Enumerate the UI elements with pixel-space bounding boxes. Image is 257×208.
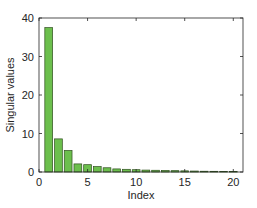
- x-tick-label: 15: [179, 176, 191, 188]
- y-tick-label: 30: [22, 51, 34, 63]
- bar: [55, 139, 63, 172]
- x-tick-label: 10: [130, 176, 142, 188]
- y-tick-label: 0: [28, 166, 34, 178]
- x-tick-label: 0: [36, 176, 42, 188]
- y-tick-label: 40: [22, 12, 34, 24]
- bar-chart: 010203040 05101520 Index Singular values: [0, 0, 257, 208]
- y-tick-label: 10: [22, 128, 34, 140]
- bar: [64, 150, 72, 172]
- bar: [123, 169, 131, 172]
- plot-frame: [39, 18, 243, 172]
- bar: [93, 167, 101, 172]
- bar: [74, 164, 82, 172]
- bar: [103, 168, 111, 172]
- x-tick-label: 5: [85, 176, 91, 188]
- bar: [113, 169, 121, 172]
- x-tick-label: 20: [227, 176, 239, 188]
- bars: [45, 28, 237, 172]
- x-axis-label: Index: [128, 189, 155, 201]
- y-tick-label: 20: [22, 89, 34, 101]
- bar: [45, 28, 53, 172]
- y-axis-label: Singular values: [4, 57, 16, 133]
